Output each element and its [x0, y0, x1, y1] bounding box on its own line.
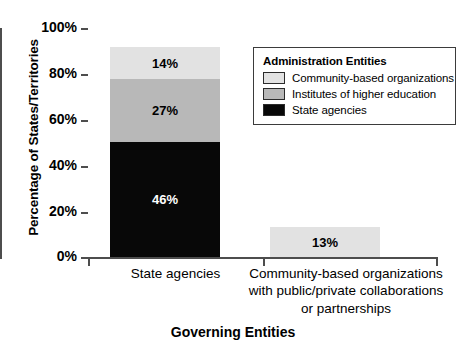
- bar-segment-label-46: 46%: [152, 193, 178, 206]
- chart-legend: Administration Entities Community-based …: [253, 47, 456, 125]
- y-axis-title: Percentage of States/Territories: [26, 13, 41, 263]
- bar-segment-label-14: 14%: [152, 57, 178, 70]
- y-tick-label-80: 80%: [17, 65, 77, 81]
- y-tick-60: 60%: [81, 120, 88, 122]
- y-axis-line: [0, 28, 2, 259]
- bar-segment-label-13: 13%: [312, 236, 338, 249]
- legend-item-community-based[interactable]: Community-based organizations: [263, 72, 447, 84]
- y-tick-label-100: 100%: [17, 19, 77, 35]
- x-category-label-2-line-3: or partnerships: [226, 300, 466, 317]
- bar-segment-community-based-2[interactable]: 13%: [270, 227, 380, 257]
- y-tick-100: 100%: [81, 28, 88, 30]
- x-category-label-2-line-2: with public/private collaborations: [226, 282, 466, 299]
- y-tick-80: 80%: [81, 74, 88, 76]
- y-tick-20: 20%: [81, 212, 88, 214]
- bar-segment-community-based[interactable]: 14%: [110, 47, 220, 79]
- x-axis-title: Governing Entities: [0, 324, 466, 340]
- y-tick-40: 40%: [81, 166, 88, 168]
- legend-swatch-higher-education: [263, 88, 285, 100]
- bar-segment-state-agencies[interactable]: 46%: [110, 142, 220, 257]
- bar-segment-higher-education[interactable]: 27%: [110, 79, 220, 142]
- legend-label-state-agencies: State agencies: [292, 104, 367, 116]
- bar-state-agencies[interactable]: 14% 27% 46%: [110, 47, 220, 257]
- y-tick-0: 0%: [81, 257, 88, 259]
- x-category-label-2-line-1: Community-based organizations: [226, 265, 466, 282]
- legend-label-higher-education: Institutes of higher education: [292, 88, 436, 100]
- y-tick-label-0: 0%: [17, 248, 77, 264]
- legend-label-community-based: Community-based organizations: [292, 72, 454, 84]
- x-category-label-community-based: Community-based organizations with publi…: [226, 265, 466, 317]
- legend-item-state-agencies[interactable]: State agencies: [263, 104, 447, 116]
- y-tick-label-20: 20%: [17, 203, 77, 219]
- bar-community-based-collaborations[interactable]: 13%: [270, 227, 380, 257]
- stacked-bar-chart: Percentage of States/Territories 100% 80…: [0, 0, 466, 354]
- legend-item-higher-education[interactable]: Institutes of higher education: [263, 88, 447, 100]
- bar-segment-label-27: 27%: [152, 104, 178, 117]
- y-tick-label-40: 40%: [17, 157, 77, 173]
- legend-swatch-state-agencies: [263, 104, 285, 116]
- y-tick-label-60: 60%: [17, 111, 77, 127]
- legend-title: Administration Entities: [263, 55, 447, 67]
- legend-swatch-community-based: [263, 72, 285, 84]
